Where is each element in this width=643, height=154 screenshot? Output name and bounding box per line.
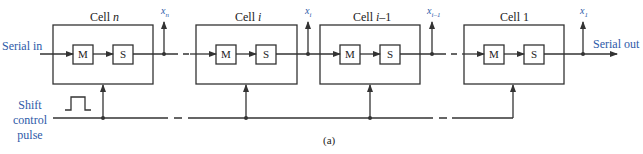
- cell-i-1-title: Cell i–1: [353, 11, 391, 23]
- m-label: M: [73, 45, 93, 64]
- cell-i-title: Cell i: [235, 11, 261, 23]
- s-label: S: [256, 45, 276, 64]
- output-xi-1-label: xi–1: [427, 6, 440, 19]
- cell-1-title: Cell 1: [500, 11, 529, 23]
- shift-control-pulse-label: Shift control pulse: [10, 98, 50, 143]
- cell-n-title: Cell n: [90, 11, 119, 23]
- s-label: S: [380, 45, 400, 64]
- figure-caption: (a): [323, 135, 335, 146]
- m-label: M: [340, 45, 360, 64]
- serial-in-label: Serial in: [2, 40, 42, 52]
- output-xi-label: xi: [305, 6, 311, 19]
- m-label: M: [216, 45, 236, 64]
- m-label: M: [484, 45, 504, 64]
- output-xn-label: xn: [161, 6, 169, 19]
- pulse-icon: [65, 97, 91, 110]
- s-label: S: [524, 45, 544, 64]
- output-x1-label: x1: [580, 6, 588, 19]
- serial-out-label: Serial out: [593, 38, 639, 50]
- s-label: S: [113, 45, 133, 64]
